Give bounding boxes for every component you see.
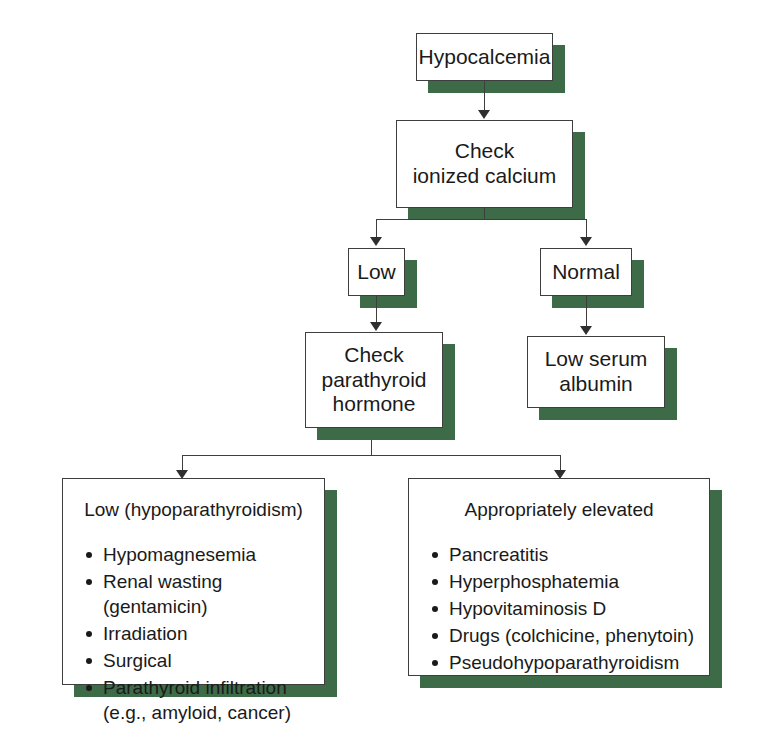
arrow-root-to-ionized [478,110,490,119]
arrow-normal-to-albumin [580,326,592,335]
low-node-label: Low [351,260,402,285]
low-pth-outcome-title: Low (hypoparathyroidism) [77,499,310,522]
list-item: Hypovitaminosis D [449,596,695,621]
connector-normal-to-albumin [586,296,587,326]
flowchart-canvas: Hypocalcemia Check ionized calcium Low N… [0,0,758,737]
low-pth-outcome-list: Hypomagnesemia Renal wasting (gentamicin… [77,542,310,726]
list-item: Hypomagnesemia [103,542,310,567]
normal-node[interactable]: Normal [540,248,632,296]
connector-pth-stem [371,440,372,456]
arrow-branch-to-low [370,237,382,246]
low-node[interactable]: Low [348,248,405,296]
list-item: Drugs (colchicine, phenytoin) [449,623,695,648]
check-parathyroid-hormone-node[interactable]: Check parathyroid hormone [305,332,443,428]
arrow-branch-to-normal [580,237,592,246]
low-serum-albumin-node[interactable]: Low serum albumin [527,336,665,408]
normal-node-label: Normal [546,260,626,285]
connector-branch-to-elevated-pth [560,455,561,471]
hypocalcemia-node[interactable]: Hypocalcemia [416,33,553,81]
list-item: Irradiation [103,621,310,646]
list-item: Parathyroid infiltration (e.g., amyloid,… [103,675,310,725]
list-item: Renal wasting (gentamicin) [103,569,310,619]
check-parathyroid-hormone-node-label: Check parathyroid hormone [315,343,432,417]
connector-branch-to-normal [586,219,587,238]
check-ionized-calcium-node[interactable]: Check ionized calcium [396,120,573,208]
connector-branch-to-low-pth [182,455,183,471]
hypocalcemia-node-label: Hypocalcemia [413,45,557,70]
connector-branch-to-low [376,219,377,238]
connector-root-to-ionized [484,81,485,111]
list-item: Surgical [103,648,310,673]
elevated-pth-outcome-box[interactable]: Appropriately elevated Pancreatitis Hype… [408,478,710,676]
elevated-pth-outcome-list: Pancreatitis Hyperphosphatemia Hypovitam… [423,542,695,675]
elevated-pth-outcome-title: Appropriately elevated [423,499,695,522]
connector-ionized-branch-bar [376,219,586,220]
connector-pth-branch-bar [182,455,560,456]
connector-low-to-pth [376,296,377,322]
list-item: Pancreatitis [449,542,695,567]
list-item: Hyperphosphatemia [449,569,695,594]
list-item: Pseudohypoparathyroidism [449,650,695,675]
check-ionized-calcium-node-label: Check ionized calcium [407,139,563,189]
low-serum-albumin-node-label: Low serum albumin [539,347,654,397]
arrow-low-to-pth [370,322,382,331]
low-pth-outcome-box[interactable]: Low (hypoparathyroidism) Hypomagnesemia … [62,478,325,685]
